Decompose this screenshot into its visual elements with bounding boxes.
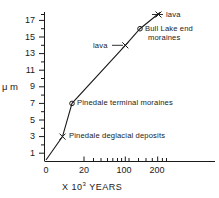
x-tick-label-20: 20 [74,166,94,175]
x-axis-title-prefix: X 10 [62,182,83,192]
x-tick-label-100: 100 [114,166,134,175]
y-tick-label-13: 13 [21,49,35,58]
data-point-lava-mid [122,42,128,48]
x-tick-label-200: 200 [147,166,167,175]
y-major-ticks [39,20,45,153]
x-axis-title: X 103 YEARS [62,181,122,192]
y-tick-label-7: 7 [21,99,35,108]
y-tick-label-1: 1 [21,149,35,158]
annotation-bull-lake-line2: moraines [148,34,180,42]
y-tick-label-3: 3 [21,132,35,141]
x-axis-title-suffix: YEARS [86,182,122,192]
annotation-pinedale-deglacial: Pinedale deglacial deposits [69,132,165,140]
x-ticks [84,157,167,162]
x-tick-label-0: 0 [36,166,56,175]
data-point-pinedale-deglacial [60,134,66,140]
annotation-lava-mid: lava [93,42,108,50]
annotation-lava-top: lava [166,11,181,19]
weathering-rind-chart: 17 15 13 11 9 7 5 3 1 μ m 0 20 100 200 X… [0,0,219,198]
y-tick-label-11: 11 [21,66,35,75]
y-tick-label-15: 15 [21,33,35,42]
y-tick-label-9: 9 [21,82,35,91]
y-axis-title: μ m [2,82,18,92]
y-tick-label-17: 17 [21,16,35,25]
y-minor-ticks [41,15,45,145]
annotation-bull-lake-line1: Bull Lake end [145,25,193,33]
annotation-pinedale-terminal: Pinedale terminal moraines [77,99,173,107]
y-tick-label-5: 5 [21,116,35,125]
